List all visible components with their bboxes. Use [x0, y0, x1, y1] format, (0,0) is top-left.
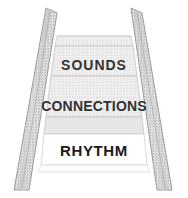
- step-tread-riser-gap: [44, 117, 144, 134]
- step-treads: [38, 36, 150, 172]
- step-tread-top-edge: [55, 36, 133, 46]
- step-tread-sounds: [51, 46, 137, 76]
- step-tread-rhythm: [41, 134, 147, 165]
- step-tread-bottom-edge: [38, 165, 150, 172]
- ladder-steps-diagram: SOUNDS CONNECTIONS RHYTHM: [0, 0, 188, 198]
- ladder-illustration: [0, 0, 188, 198]
- step-tread-connections: [46, 76, 142, 117]
